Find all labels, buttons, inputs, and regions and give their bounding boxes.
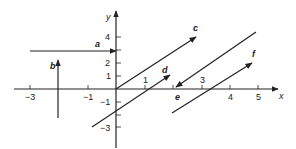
- x-tick-label: 5: [256, 92, 261, 102]
- x-axis-label: x: [278, 91, 284, 101]
- vector-b-label: b: [50, 61, 56, 71]
- x-tick-label: 3: [200, 75, 205, 85]
- vector-a-label: a: [95, 39, 100, 49]
- x-tick-label: 4: [228, 92, 233, 102]
- vector-d-label: d: [162, 65, 168, 75]
- y-tick-label: −3: [100, 123, 110, 133]
- vector-a: a: [30, 39, 116, 51]
- vector-e-label: e: [175, 92, 180, 102]
- y-tick-label: 4: [105, 32, 110, 42]
- vector-f-label: f: [252, 49, 256, 59]
- vector-c: c: [116, 23, 198, 89]
- y-axis: y 4 2 1 −1 −3: [100, 11, 121, 148]
- x-tick-label: −3: [25, 92, 35, 102]
- vector-c-label: c: [193, 23, 198, 33]
- y-axis-label: y: [105, 12, 111, 22]
- x-tick-label: −1: [83, 92, 93, 102]
- y-tick-label: 2: [105, 58, 110, 68]
- y-tick-label: 1: [106, 71, 111, 81]
- x-tick-label: 1: [143, 75, 148, 85]
- vector-diagram: x −3 −1 1 3 4 5 y 4 2 1 −1 −3 a: [0, 0, 296, 149]
- vector-d: d: [92, 65, 170, 127]
- y-tick-label: −1: [100, 97, 110, 107]
